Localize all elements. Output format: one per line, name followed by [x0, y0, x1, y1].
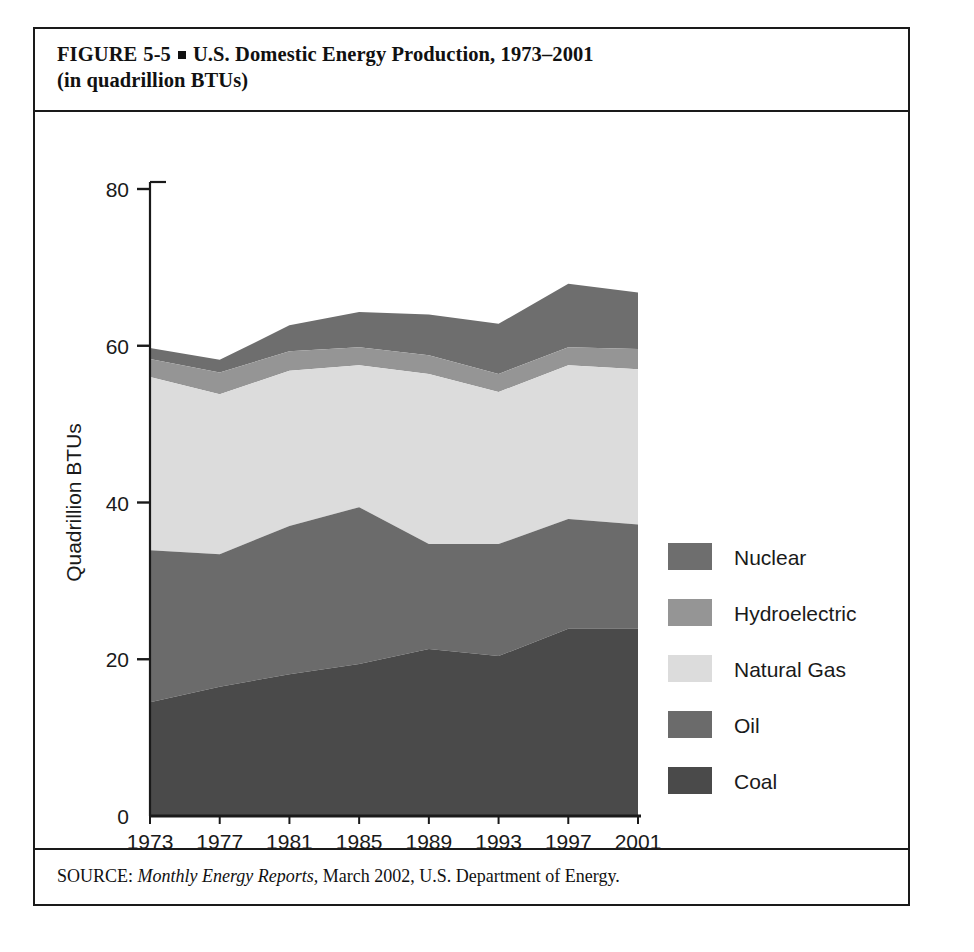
y-axis-title: Quadrillion BTUs [62, 423, 85, 582]
legend-swatch-coal [668, 767, 712, 794]
source-prefix: SOURCE: [57, 866, 133, 886]
legend-label-hydroelectric: Hydroelectric [734, 602, 857, 625]
figure-title-line-1: FIGURE5-5U.S. Domestic Energy Production… [57, 41, 908, 67]
stacked-area-chart: 020406080 197319771981198519891993199720… [35, 112, 908, 852]
chart-legend: NuclearHydroelectricNatural GasOilCoal [668, 543, 857, 794]
figure-source-block: SOURCE: Monthly Energy Reports, March 20… [35, 848, 908, 904]
legend-swatch-hydroelectric [668, 599, 712, 626]
y-tick-label: 20 [106, 648, 129, 671]
chart-plot-area: 020406080 197319771981198519891993199720… [35, 112, 908, 852]
y-axis-tick-labels: 020406080 [106, 178, 129, 828]
source-rest: March 2002, U.S. Department of Energy. [323, 866, 620, 886]
legend-label-oil: Oil [734, 714, 760, 737]
source-line: SOURCE: Monthly Energy Reports, March 20… [57, 866, 908, 887]
y-tick-label: 0 [117, 805, 129, 828]
source-publication: Monthly Energy Reports, [138, 866, 319, 886]
legend-swatch-oil [668, 711, 712, 738]
legend-swatch-natural-gas [668, 655, 712, 682]
figure-title-block: FIGURE5-5U.S. Domestic Energy Production… [35, 29, 908, 112]
y-axis-title-text: Quadrillion BTUs [62, 423, 85, 582]
y-tick-label: 40 [106, 492, 129, 515]
chart-areas-group [150, 284, 638, 816]
figure-title-line-2: (in quadrillion BTUs) [57, 67, 908, 93]
legend-swatch-nuclear [668, 543, 712, 570]
figure-title-main: U.S. Domestic Energy Production, 1973–20… [193, 43, 594, 65]
legend-label-coal: Coal [734, 770, 777, 793]
figure-number: 5-5 [143, 43, 171, 65]
square-bullet-icon [178, 51, 186, 59]
y-tick-label: 60 [106, 335, 129, 358]
legend-label-natural-gas: Natural Gas [734, 658, 846, 681]
figure-label: FIGURE [57, 43, 137, 65]
legend-label-nuclear: Nuclear [734, 546, 806, 569]
y-tick-label: 80 [106, 178, 129, 201]
figure-frame: FIGURE5-5U.S. Domestic Energy Production… [33, 27, 910, 906]
